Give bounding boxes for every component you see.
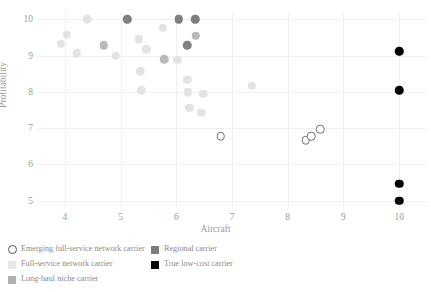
data-point xyxy=(395,196,404,205)
data-point xyxy=(395,179,404,188)
legend-swatch-icon xyxy=(8,245,17,254)
legend-swatch-icon xyxy=(151,261,159,269)
x-tick-label: 8 xyxy=(285,212,290,222)
data-point xyxy=(57,39,66,48)
data-point xyxy=(173,56,182,65)
legend-item-label: Full-service network carrier xyxy=(21,260,112,268)
x-tick-label: 10 xyxy=(394,212,404,222)
x-tick-label: 9 xyxy=(341,212,346,222)
data-point xyxy=(62,31,71,40)
x-axis-label: Aircraft xyxy=(0,224,431,234)
legend-column-left: Emerging full-service network carrierFul… xyxy=(8,243,145,288)
plot-area xyxy=(37,12,427,208)
data-point xyxy=(192,31,201,40)
y-tick-label: 10 xyxy=(0,14,37,24)
legend-item[interactable]: Full-service network carrier xyxy=(8,258,145,271)
data-points-layer xyxy=(37,12,427,208)
data-point xyxy=(184,88,193,97)
y-tick-label: 7 xyxy=(0,123,37,133)
data-point xyxy=(191,15,200,24)
legend-item[interactable]: Emerging full-service network carrier xyxy=(8,243,145,256)
data-point xyxy=(197,109,206,118)
legend-swatch-icon xyxy=(8,276,16,284)
data-point xyxy=(247,81,256,90)
legend-item[interactable]: Long-haul niche carrier xyxy=(8,273,145,286)
legend-column-right: Regional carrierTrue low-cost carrier xyxy=(151,243,233,273)
legend-item-label: Long-haul niche carrier xyxy=(21,275,98,283)
legend-item-label: True low-cost carrier xyxy=(164,260,233,268)
legend-swatch-icon xyxy=(151,246,159,254)
data-point xyxy=(123,15,132,24)
data-point xyxy=(395,86,404,95)
data-point xyxy=(159,23,168,32)
data-point xyxy=(307,132,316,141)
x-tick-label: 4 xyxy=(62,212,67,222)
data-point xyxy=(135,35,144,44)
legend-swatch-icon xyxy=(8,261,16,269)
data-point xyxy=(316,125,325,134)
scatter-chart: 5678910 45678910 Profitability Aircraft … xyxy=(0,0,431,292)
data-point xyxy=(136,67,145,76)
data-point xyxy=(217,132,226,141)
y-tick-label: 9 xyxy=(0,51,37,61)
x-tick-label: 6 xyxy=(174,212,179,222)
data-point xyxy=(83,15,92,24)
data-point xyxy=(183,41,192,50)
data-point xyxy=(137,86,146,95)
data-point xyxy=(160,55,169,64)
data-point xyxy=(185,104,194,113)
legend-item-label: Regional carrier xyxy=(164,245,217,253)
y-axis-label: Profitability xyxy=(0,62,8,108)
x-tick-label: 5 xyxy=(118,212,123,222)
data-point xyxy=(100,41,109,50)
y-tick-label: 6 xyxy=(0,159,37,169)
data-point xyxy=(142,45,151,54)
legend-item[interactable]: Regional carrier xyxy=(151,243,233,256)
data-point xyxy=(395,47,404,56)
data-point xyxy=(199,89,208,98)
legend-item-label: Emerging full-service network carrier xyxy=(21,245,145,253)
data-point xyxy=(174,15,183,24)
y-tick-label: 5 xyxy=(0,196,37,206)
data-point xyxy=(111,51,120,60)
legend-item[interactable]: True low-cost carrier xyxy=(151,258,233,271)
x-tick-label: 7 xyxy=(230,212,235,222)
data-point xyxy=(72,49,81,58)
data-point xyxy=(183,76,192,85)
